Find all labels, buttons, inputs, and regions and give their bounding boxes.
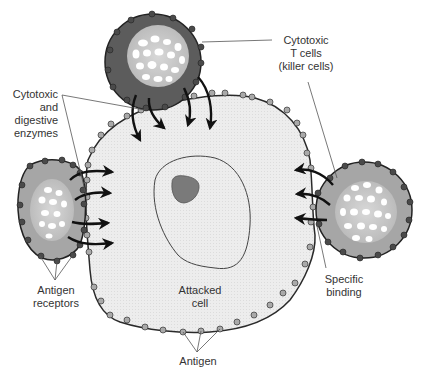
label-antigen-receptors: Antigen receptors <box>33 284 79 309</box>
label-cytotoxic-t-cells: Cytotoxic T cells (killer cells) <box>279 34 334 72</box>
label-text: Cytotoxic <box>283 34 329 46</box>
label-text: Antigen <box>37 284 74 296</box>
right-killer-t-cell <box>315 159 413 261</box>
label-text: enzymes <box>14 127 59 139</box>
label-text: (killer cells) <box>279 60 334 72</box>
label-text: digestive <box>15 114 58 126</box>
label-cytotoxic-enzymes: Cytotoxic and digestive enzymes <box>13 88 59 139</box>
label-text: T cells <box>290 47 322 59</box>
label-text: and <box>40 101 58 113</box>
label-text: Cytotoxic <box>13 88 59 100</box>
label-text: Specific <box>325 273 364 285</box>
top-killer-t-cell <box>105 11 204 111</box>
left-killer-t-cell <box>17 157 87 264</box>
label-text: binding <box>326 286 361 298</box>
label-text: cell <box>192 297 209 309</box>
label-text: Antigen <box>179 355 216 367</box>
label-antigen: Antigen <box>179 355 216 367</box>
label-text: receptors <box>33 297 79 309</box>
label-specific-binding: Specific binding <box>325 273 364 298</box>
label-text: Attacked <box>179 284 222 296</box>
cytotoxic-t-cell-diagram: Cytotoxic T cells (killer cells) Cytotox… <box>0 0 425 378</box>
